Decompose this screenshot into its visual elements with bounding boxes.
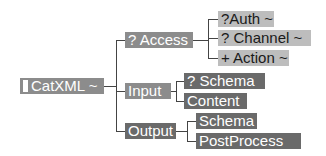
- connector: [116, 91, 125, 92]
- node-input-label: Input: [128, 82, 161, 99]
- node-access-label: ? Access: [128, 31, 188, 48]
- connector: [176, 81, 177, 101]
- root-marker-icon: [23, 80, 28, 92]
- connector: [116, 40, 117, 132]
- connector: [176, 131, 187, 132]
- node-input-schema[interactable]: ? Schema: [184, 73, 265, 89]
- connector: [193, 40, 208, 41]
- node-output-label: Output: [128, 122, 173, 139]
- node-input[interactable]: Input: [125, 83, 171, 99]
- node-output[interactable]: Output: [125, 123, 176, 139]
- connector: [116, 40, 125, 41]
- connector: [187, 121, 188, 141]
- node-catxml[interactable]: CatXML ~: [20, 78, 104, 94]
- node-postprocess-label: PostProcess: [199, 132, 283, 149]
- node-catxml-label: CatXML ~: [31, 77, 98, 94]
- node-input-schema-label: ? Schema: [187, 72, 255, 89]
- connector: [187, 141, 196, 142]
- connector: [104, 86, 116, 87]
- node-auth[interactable]: ?Auth ~: [218, 11, 274, 27]
- node-content[interactable]: Content: [184, 93, 247, 109]
- connector: [187, 121, 196, 122]
- node-channel-label: ? Channel ~: [221, 29, 302, 46]
- node-access[interactable]: ? Access: [125, 32, 193, 48]
- connector: [176, 81, 184, 82]
- node-action[interactable]: + Action ~: [218, 50, 289, 66]
- connector: [116, 131, 125, 132]
- connector: [208, 38, 218, 39]
- connector: [176, 101, 184, 102]
- node-content-label: Content: [187, 92, 240, 109]
- node-auth-label: ?Auth ~: [221, 10, 273, 27]
- node-output-schema-label: Schema: [199, 112, 254, 129]
- node-postprocess[interactable]: PostProcess: [196, 133, 301, 149]
- node-action-label: + Action ~: [221, 49, 288, 66]
- node-channel[interactable]: ? Channel ~: [218, 30, 311, 46]
- connector: [208, 19, 218, 20]
- connector: [208, 58, 218, 59]
- node-output-schema[interactable]: Schema: [196, 113, 257, 129]
